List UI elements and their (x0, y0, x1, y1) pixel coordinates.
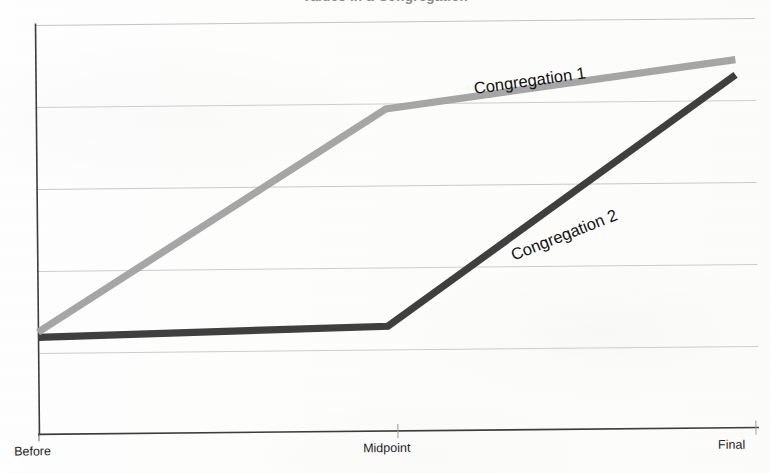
x-axis-label-midpoint: Midpoint (363, 441, 410, 455)
line-chart-svg (0, 0, 770, 473)
series-line-congregation-1 (35, 60, 738, 333)
gridline-1 (38, 346, 758, 353)
x-axis-label-final: Final (718, 438, 745, 452)
chart-plot-area: Before Midpoint Final Congregation 1 Con… (0, 0, 770, 473)
series-line-congregation-2 (36, 75, 738, 337)
axis-lines (34, 16, 759, 435)
gridline-3 (37, 182, 757, 189)
x-axis-label-before: Before (14, 444, 51, 458)
gridline-top (35, 18, 755, 25)
x-axis-ticks (39, 420, 756, 441)
y-axis-line (36, 23, 40, 435)
